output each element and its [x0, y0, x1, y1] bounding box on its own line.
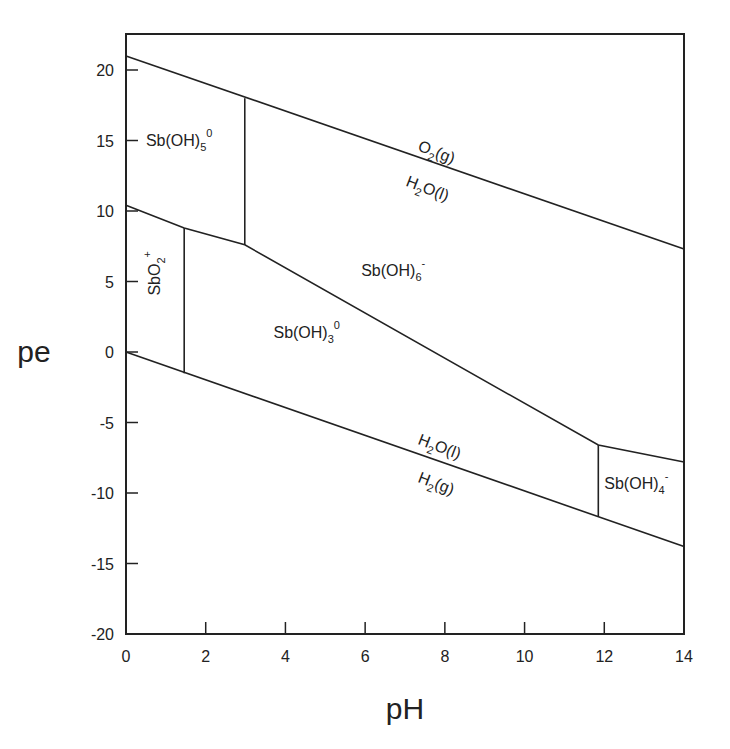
y-tick-label: 20 — [96, 62, 114, 79]
y-tick-label: 5 — [105, 274, 114, 291]
region-label: H2(g) — [414, 469, 456, 502]
x-tick-label: 2 — [201, 648, 210, 665]
y-tick-label: 0 — [105, 344, 114, 361]
y-axis-title: pe — [17, 335, 50, 368]
region-label: Sb(OH)6- — [361, 257, 425, 283]
y-tick-label: 15 — [96, 133, 114, 150]
x-tick-label: 4 — [281, 648, 290, 665]
y-tick-label: -5 — [100, 415, 114, 432]
boundary-line — [126, 56, 684, 249]
region-label: SbO2+ — [141, 251, 167, 296]
plot-frame — [126, 34, 684, 634]
x-axis-title: pH — [386, 692, 424, 725]
y-tick-label: -20 — [91, 626, 114, 643]
region-label: O2(g) — [414, 137, 457, 170]
y-tick-label: -10 — [91, 485, 114, 502]
boundary-line — [126, 205, 684, 462]
axis-ticks: 02468101214-20-15-10-505101520 — [91, 62, 693, 665]
region-label: H2O(l) — [402, 173, 451, 208]
x-tick-label: 0 — [122, 648, 131, 665]
region-label: Sb(OH)30 — [273, 319, 339, 345]
y-tick-label: -15 — [91, 556, 114, 573]
eh-ph-diagram: 02468101214-20-15-10-505101520 Sb(OH)50O… — [0, 0, 730, 749]
region-labels: Sb(OH)50O2(g)H2O(l)Sb(OH)6-SbO2+Sb(OH)30… — [141, 127, 669, 501]
x-tick-label: 6 — [361, 648, 370, 665]
x-tick-label: 14 — [675, 648, 693, 665]
boundary-line — [126, 352, 684, 547]
x-tick-label: 8 — [440, 648, 449, 665]
region-label: Sb(OH)4- — [604, 470, 668, 496]
region-label: Sb(OH)50 — [146, 127, 212, 153]
x-tick-label: 10 — [516, 648, 534, 665]
y-tick-label: 10 — [96, 203, 114, 220]
x-tick-label: 12 — [595, 648, 613, 665]
